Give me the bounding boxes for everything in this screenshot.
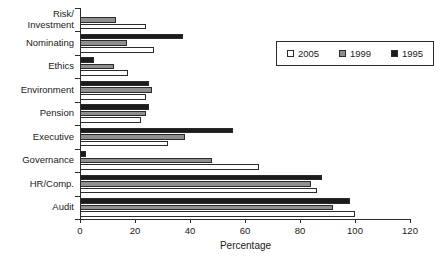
bar-2005 — [80, 164, 259, 170]
bar-group — [80, 102, 410, 125]
bar-chart: Risk/ InvestmentNominatingEthicsEnvironm… — [0, 0, 447, 267]
bar-1999 — [80, 134, 185, 140]
bar-1999 — [80, 205, 333, 211]
bar-1999 — [80, 158, 212, 164]
legend-label-1999: 1999 — [350, 48, 371, 59]
bar-group — [80, 196, 410, 219]
x-axis-title: Percentage — [80, 240, 411, 251]
bar-group — [80, 172, 410, 195]
x-axis-tick — [355, 219, 356, 223]
legend-label-2005: 2005 — [298, 48, 319, 59]
legend-label-1995: 1995 — [402, 48, 423, 59]
bar-1995 — [80, 34, 183, 40]
y-axis-label: Environment — [0, 85, 74, 96]
x-axis-tick — [410, 219, 411, 223]
bar-1995 — [80, 175, 322, 181]
x-axis-tick-label: 40 — [175, 225, 205, 236]
x-axis-tick-label: 20 — [120, 225, 150, 236]
bar-1995 — [80, 198, 350, 204]
x-axis-tick — [245, 219, 246, 223]
plot-area — [80, 8, 410, 219]
legend-swatch-1995-icon — [391, 50, 398, 57]
bar-2005 — [80, 117, 141, 123]
bar-1995 — [80, 151, 86, 157]
y-axis-labels: Risk/ InvestmentNominatingEthicsEnvironm… — [0, 8, 74, 219]
x-axis-tick-label: 120 — [395, 225, 425, 236]
x-axis-tick-label: 100 — [340, 225, 370, 236]
legend-item-2005: 2005 — [287, 48, 319, 59]
bar-1999 — [80, 87, 152, 93]
bar-2005 — [80, 94, 146, 100]
bar-1999 — [80, 40, 127, 46]
bar-1995 — [80, 104, 149, 110]
bar-group — [80, 149, 410, 172]
bar-1999 — [80, 181, 311, 187]
bar-1995 — [80, 81, 149, 87]
bar-group — [80, 8, 410, 31]
bar-1995 — [80, 57, 94, 63]
bar-group — [80, 78, 410, 101]
x-axis-tick-label: 0 — [65, 225, 95, 236]
bar-1995 — [80, 128, 233, 134]
bar-group — [80, 125, 410, 148]
x-axis-tick — [80, 219, 81, 223]
y-axis-label: Risk/ Investment — [0, 9, 74, 30]
y-axis-label: Nominating — [0, 38, 74, 49]
x-axis-tick-label: 80 — [285, 225, 315, 236]
y-axis-label: HR/Comp. — [0, 179, 74, 190]
bar-1999 — [80, 111, 146, 117]
y-axis-label: Pension — [0, 108, 74, 119]
bar-2005 — [80, 24, 146, 30]
legend-item-1995: 1995 — [391, 48, 423, 59]
y-axis-label: Ethics — [0, 61, 74, 72]
x-axis-tick-label: 60 — [230, 225, 260, 236]
legend-swatch-1999-icon — [339, 50, 346, 57]
bar-2005 — [80, 141, 168, 147]
bar-1999 — [80, 64, 114, 70]
x-axis-tick — [300, 219, 301, 223]
bar-2005 — [80, 70, 128, 76]
bar-1999 — [80, 17, 116, 23]
bar-2005 — [80, 47, 154, 53]
legend-swatch-2005-icon — [287, 50, 294, 57]
legend-item-1999: 1999 — [339, 48, 371, 59]
y-axis-label: Executive — [0, 132, 74, 143]
y-axis-label: Governance — [0, 155, 74, 166]
chart-legend: 2005 1999 1995 — [276, 41, 434, 66]
bar-2005 — [80, 211, 355, 217]
x-axis-tick — [190, 219, 191, 223]
bar-2005 — [80, 188, 317, 194]
y-axis-label: Audit — [0, 202, 74, 213]
x-axis-tick — [135, 219, 136, 223]
